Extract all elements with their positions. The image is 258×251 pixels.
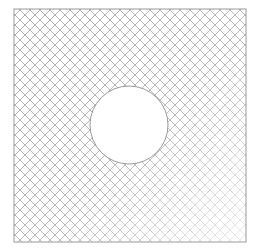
circular-hole: [90, 86, 168, 164]
diagram-canvas: [0, 0, 258, 251]
